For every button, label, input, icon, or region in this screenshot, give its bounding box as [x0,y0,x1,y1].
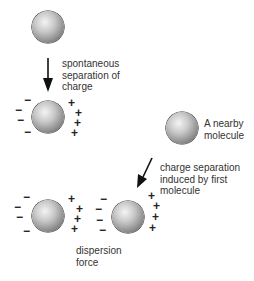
label-induced-separation: charge separation induced by first molec… [160,162,240,197]
molecule-dipole-left [32,200,64,232]
molecule-polarized-first [32,101,64,133]
molecule-induced-right [112,201,144,233]
minus-sign: − [24,94,31,106]
minus-sign: − [99,224,106,236]
down-arrow [43,58,53,92]
dispersion-force-diagram: spontaneous separation of charge − − − −… [0,0,254,281]
minus-sign: − [24,126,31,138]
label-dispersion-force: dispersion force [76,245,122,268]
label-spontaneous-separation: spontaneous separation of charge [62,58,120,93]
plus-sign: + [68,97,75,109]
molecule-nearby [166,112,198,144]
molecule-neutral-top [32,11,64,43]
plus-sign: + [71,223,78,235]
minus-sign: − [23,191,30,203]
minus-sign: − [17,114,24,126]
minus-sign: − [23,225,30,237]
plus-sign: + [71,127,78,139]
minus-sign: − [16,211,23,223]
plus-sign: + [68,193,75,205]
plus-sign: + [149,222,156,234]
label-nearby-molecule: A nearby molecule [204,118,244,141]
diagonal-arrow [137,158,152,188]
